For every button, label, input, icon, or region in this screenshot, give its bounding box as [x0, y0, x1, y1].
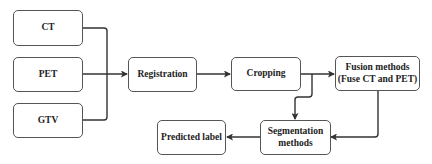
- node-pet-label: PET: [39, 69, 57, 81]
- edge-gtv-bus: [83, 74, 107, 120]
- node-segmentation-line1: Segmentation: [268, 126, 323, 138]
- node-pet: PET: [13, 57, 83, 92]
- node-ct-label: CT: [41, 22, 54, 34]
- node-fusion-line1: Fusion methods: [345, 62, 409, 74]
- node-registration: Registration: [128, 57, 197, 92]
- node-segmentation-line2: methods: [278, 138, 312, 150]
- node-predicted-label: Predicted label: [157, 120, 226, 155]
- node-ct: CT: [13, 10, 83, 46]
- edge-ct-bus: [83, 28, 107, 74]
- node-predicted-label-text: Predicted label: [161, 132, 222, 144]
- node-cropping-label: Cropping: [247, 68, 286, 80]
- node-gtv-label: GTV: [38, 115, 59, 127]
- node-cropping: Cropping: [231, 57, 301, 91]
- node-fusion: Fusion methods (Fuse CT and PET): [335, 56, 420, 91]
- edge-fusion-segmentation: [331, 91, 378, 137]
- node-registration-label: Registration: [137, 69, 187, 81]
- node-gtv: GTV: [13, 103, 83, 138]
- node-fusion-line2: (Fuse CT and PET): [338, 74, 417, 86]
- node-segmentation: Segmentation methods: [260, 120, 331, 155]
